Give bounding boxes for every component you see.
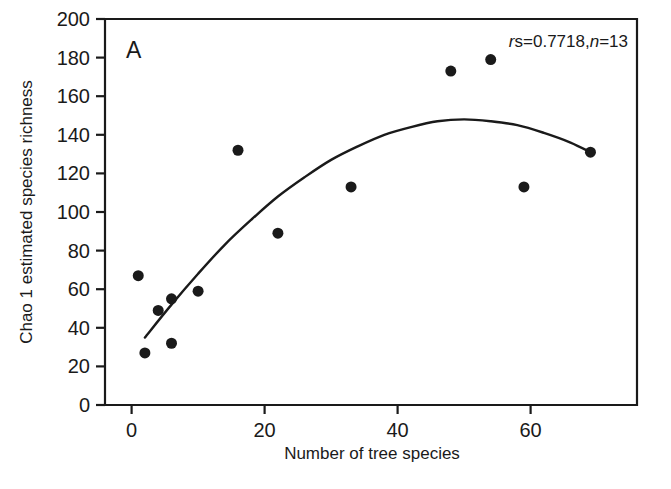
data-point <box>133 270 144 281</box>
figure-page: 020406080100120140160180200 0204060 A rs… <box>0 0 671 489</box>
annot-n-symbol: n <box>590 32 599 51</box>
data-point <box>518 181 529 192</box>
statistics-annotation: rs=0.7718,n=13 <box>509 32 628 51</box>
x-tick-label: 0 <box>126 419 137 441</box>
y-tick-label: 80 <box>68 240 90 262</box>
scatter-plot-figure: 020406080100120140160180200 0204060 A rs… <box>0 0 671 489</box>
annot-s-subscript: s <box>515 32 524 51</box>
annot-rs-value: =0.7718, <box>523 32 590 51</box>
x-axis-tick-marks <box>132 405 531 414</box>
y-tick-label: 20 <box>68 355 90 377</box>
data-point <box>485 54 496 65</box>
y-axis-tick-labels: 020406080100120140160180200 <box>57 8 90 416</box>
data-point <box>153 305 164 316</box>
y-tick-label: 200 <box>57 8 90 30</box>
y-axis-tick-marks <box>96 19 105 405</box>
y-tick-label: 120 <box>57 162 90 184</box>
y-tick-label: 160 <box>57 85 90 107</box>
data-point <box>585 147 596 158</box>
y-axis-title: Chao 1 estimated species richness <box>17 80 36 344</box>
plot-frame <box>105 19 637 405</box>
fitted-regression-curve <box>145 119 591 337</box>
y-tick-label: 40 <box>68 317 90 339</box>
x-axis-title: Number of tree species <box>284 444 460 463</box>
scatter-data-points <box>133 54 596 358</box>
axis-frame-path <box>105 19 637 405</box>
x-tick-label: 40 <box>386 419 408 441</box>
y-tick-label: 180 <box>57 47 90 69</box>
annot-n-value: =13 <box>599 32 628 51</box>
y-tick-label: 0 <box>79 394 90 416</box>
data-point <box>233 145 244 156</box>
data-point <box>346 181 357 192</box>
data-point <box>445 66 456 77</box>
x-axis-tick-labels: 0204060 <box>126 419 542 441</box>
y-tick-label: 140 <box>57 124 90 146</box>
data-point <box>272 228 283 239</box>
x-tick-label: 60 <box>519 419 541 441</box>
data-point <box>166 293 177 304</box>
y-tick-label: 100 <box>57 201 90 223</box>
data-point <box>139 347 150 358</box>
data-point <box>166 338 177 349</box>
y-tick-label: 60 <box>68 278 90 300</box>
data-point <box>193 286 204 297</box>
x-tick-label: 20 <box>253 419 275 441</box>
panel-label-a: A <box>126 37 142 63</box>
